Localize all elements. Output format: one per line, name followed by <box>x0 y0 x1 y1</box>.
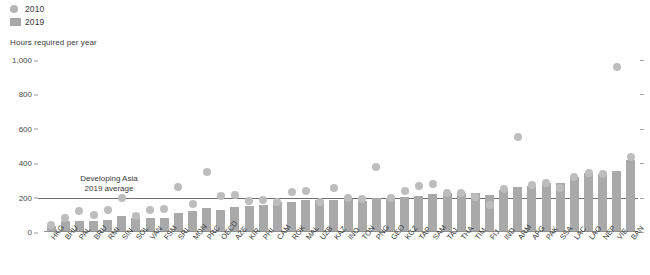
right-tick-400 <box>640 163 644 164</box>
dot-2010[interactable] <box>302 187 310 195</box>
dot-2010[interactable] <box>486 201 494 209</box>
bar-group[interactable] <box>47 60 56 232</box>
bar-group[interactable] <box>245 60 254 232</box>
legend-item-2010: 2010 <box>10 3 44 14</box>
data-series-group <box>44 60 638 232</box>
dot-2010[interactable] <box>146 206 154 214</box>
bar-group[interactable] <box>513 60 522 232</box>
bar-group[interactable] <box>75 60 84 232</box>
dot-2010[interactable] <box>259 196 267 204</box>
bar-group[interactable] <box>499 60 508 232</box>
bar-group[interactable] <box>598 60 607 232</box>
bar-group[interactable] <box>202 60 211 232</box>
bar-group[interactable] <box>626 60 635 232</box>
dot-2010[interactable] <box>401 187 409 195</box>
dot-2010[interactable] <box>90 211 98 219</box>
y-tick-0: 0 <box>28 228 32 237</box>
y-axis-tick-labels: 02004006008001,000 <box>0 55 40 237</box>
dot-2010[interactable] <box>372 163 380 171</box>
dot-2010[interactable] <box>174 183 182 191</box>
dot-2010[interactable] <box>599 170 607 178</box>
bar-group[interactable] <box>160 60 169 232</box>
dot-2010[interactable] <box>189 200 197 208</box>
bar-group[interactable] <box>329 60 338 232</box>
y-axis-title: Hours required per year <box>10 38 97 47</box>
right-tick-1000 <box>640 60 644 61</box>
dot-2010[interactable] <box>415 182 423 190</box>
bar-group[interactable] <box>188 60 197 232</box>
bar-2019[interactable] <box>626 160 635 232</box>
bar-group[interactable] <box>414 60 423 232</box>
y-tick-400: 400 <box>19 159 32 168</box>
bar-group[interactable] <box>230 60 239 232</box>
right-tick-800 <box>640 94 644 95</box>
dot-2010[interactable] <box>75 207 83 215</box>
bar-2019[interactable] <box>457 193 466 232</box>
bar-group[interactable] <box>174 60 183 232</box>
bar-group[interactable] <box>485 60 494 232</box>
dot-2010[interactable] <box>514 133 522 141</box>
dot-2010[interactable] <box>104 206 112 214</box>
bar-2019[interactable] <box>584 173 593 232</box>
bar-2019[interactable] <box>485 195 494 232</box>
legend-item-2019: 2019 <box>10 16 44 27</box>
dot-2010[interactable] <box>245 197 253 205</box>
dot-2010[interactable] <box>160 205 168 213</box>
bar-group[interactable] <box>146 60 155 232</box>
bar-2019[interactable] <box>570 177 579 232</box>
bar-2019[interactable] <box>598 174 607 232</box>
bar-group[interactable] <box>386 60 395 232</box>
dot-2010[interactable] <box>387 194 395 202</box>
right-tick-600 <box>640 129 644 130</box>
bar-group[interactable] <box>443 60 452 232</box>
bar-2019[interactable] <box>612 171 621 232</box>
bar-2019[interactable] <box>499 190 508 232</box>
dot-2010[interactable] <box>429 180 437 188</box>
bar-group[interactable] <box>259 60 268 232</box>
bar-group[interactable] <box>344 60 353 232</box>
bar-group[interactable] <box>556 60 565 232</box>
y-tick-800: 800 <box>19 90 32 99</box>
bar-group[interactable] <box>584 60 593 232</box>
bar-group[interactable] <box>527 60 536 232</box>
bar-2019[interactable] <box>542 183 551 232</box>
bar-group[interactable] <box>612 60 621 232</box>
bar-group[interactable] <box>372 60 381 232</box>
bar-group[interactable] <box>457 60 466 232</box>
dot-2010[interactable] <box>500 185 508 193</box>
bar-group[interactable] <box>542 60 551 232</box>
bar-group[interactable] <box>273 60 282 232</box>
bar-group[interactable] <box>103 60 112 232</box>
bar-group[interactable] <box>428 60 437 232</box>
bar-group[interactable] <box>570 60 579 232</box>
bar-group[interactable] <box>89 60 98 232</box>
bar-2019[interactable] <box>428 194 437 232</box>
legend-label-2019: 2019 <box>25 17 44 27</box>
bar-group[interactable] <box>471 60 480 232</box>
dot-2010[interactable] <box>217 192 225 200</box>
right-tick-200 <box>640 198 644 199</box>
bar-group[interactable] <box>61 60 70 232</box>
bar-group[interactable] <box>287 60 296 232</box>
bar-group[interactable] <box>358 60 367 232</box>
bar-group[interactable] <box>131 60 140 232</box>
dot-2010[interactable] <box>457 189 465 197</box>
dot-2010[interactable] <box>231 191 239 199</box>
bar-group[interactable] <box>315 60 324 232</box>
dot-2010[interactable] <box>203 168 211 176</box>
dot-2010[interactable] <box>330 184 338 192</box>
y-tick-200: 200 <box>19 193 32 202</box>
dot-2010[interactable] <box>344 194 352 202</box>
dot-2010[interactable] <box>613 63 621 71</box>
bar-2019[interactable] <box>513 187 522 232</box>
bar-group[interactable] <box>301 60 310 232</box>
dot-2010[interactable] <box>118 194 126 202</box>
bar-group[interactable] <box>400 60 409 232</box>
dot-2010[interactable] <box>585 169 593 177</box>
plot-area: Developing Asia 2019 average <box>44 60 638 232</box>
dot-2010[interactable] <box>528 181 536 189</box>
dot-2010[interactable] <box>288 188 296 196</box>
bar-group[interactable] <box>117 60 126 232</box>
bar-group[interactable] <box>216 60 225 232</box>
square-marker-icon <box>10 18 21 26</box>
